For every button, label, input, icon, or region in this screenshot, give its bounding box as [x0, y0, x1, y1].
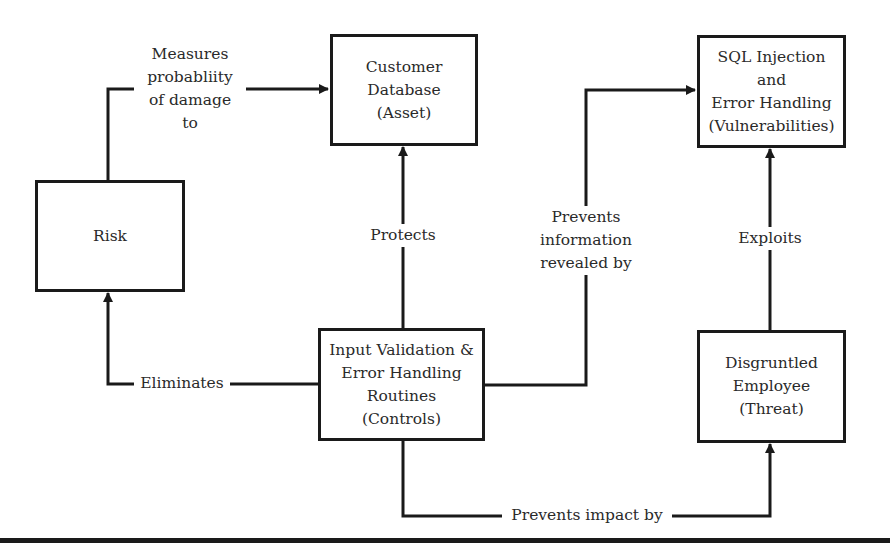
node-risk-label: Risk — [93, 225, 127, 248]
node-threat: Disgruntled Employee (Threat) — [697, 330, 846, 443]
node-vulnerabilities-label: SQL Injection and Error Handling (Vulner… — [708, 46, 834, 138]
node-controls: Input Validation & Error Handling Routin… — [318, 328, 485, 441]
node-threat-label: Disgruntled Employee (Threat) — [725, 352, 818, 421]
node-vulnerabilities: SQL Injection and Error Handling (Vulner… — [697, 35, 846, 148]
edge-label-exploits: Exploits — [731, 227, 809, 250]
edge-label-prevents-information: Prevents information revealed by — [538, 206, 634, 275]
edge-label-prevents-impact: Prevents impact by — [502, 504, 672, 527]
edge-label-measures: Measures probabliity of damage to — [134, 43, 246, 135]
node-customer-database: Customer Database (Asset) — [330, 34, 478, 146]
edge-label-eliminates: Eliminates — [134, 372, 230, 395]
node-customer-database-label: Customer Database (Asset) — [366, 56, 443, 125]
edge-eliminates — [108, 293, 318, 384]
risk-relationship-diagram: Customer Database (Asset) SQL Injection … — [0, 0, 890, 557]
edge-label-protects: Protects — [360, 224, 446, 247]
node-controls-label: Input Validation & Error Handling Routin… — [329, 339, 473, 431]
bottom-rule-divider — [0, 538, 890, 543]
node-risk: Risk — [35, 180, 185, 292]
